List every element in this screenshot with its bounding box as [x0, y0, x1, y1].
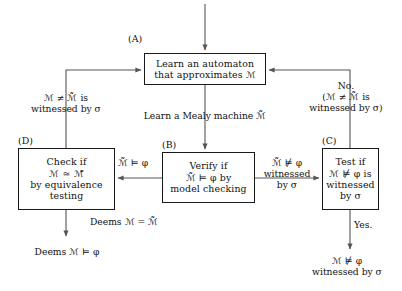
edge-label-c-to-a: No. (ℳ ≠ ℳ̃ is witnessed by σ) [292, 80, 400, 114]
node-d-line-1: Check if [47, 156, 87, 167]
node-c-line-3: witnessed [326, 179, 374, 190]
edge-label-c-to-a-line-1: No. [292, 80, 400, 91]
flowchart-canvas: (A) Learn an automaton that approximates… [0, 0, 402, 291]
edge-label-b-to-c-line-3: by σ [256, 179, 318, 190]
edge-label-b-to-c-line-2: witnessed [256, 168, 318, 179]
node-c-line-4: by σ [340, 190, 361, 201]
node-tag-d: (D) [18, 136, 33, 146]
edge-label-d-to-a-line-1: ℳ ≠ ℳ̃ is [12, 92, 120, 103]
node-d-line-2: ℳ ≃ ℳ̃ [49, 168, 83, 179]
edge-label-b-to-c-line-1: ℳ̃ ⊭ φ [256, 157, 318, 168]
terminal-bottom-left-line-1: Deems ℳ ⊨ φ [8, 246, 126, 257]
node-a-line-2: that approximates ℳ [154, 69, 256, 80]
node-a-line-1: Learn an automaton [156, 58, 254, 69]
edge-label-a-to-b-line-1: Learn a Mealy machine ℳ̃ [130, 110, 280, 121]
node-c-line-2: ℳ ⊭ φ is [329, 168, 371, 179]
node-tag-b: (B) [162, 140, 176, 150]
edge-label-b-to-d: ℳ̃ ⊨ φ [104, 157, 162, 168]
terminal-bottom-right: ℳ ⊭ φ witnessed by σ [292, 255, 402, 277]
node-b-line-2: ℳ̃ ⊨ φ by [186, 172, 232, 183]
edge-label-b-to-c: ℳ̃ ⊭ φ witnessed by σ [256, 157, 318, 191]
edge-label-c-outcome: Yes. [354, 219, 398, 230]
node-c-test-witness[interactable]: Test if ℳ ⊭ φ is witnessed by σ [322, 148, 379, 210]
edge-label-c-to-a-line-3: witnessed by σ) [292, 102, 400, 113]
node-d-check-equivalence[interactable]: Check if ℳ ≃ ℳ̃ by equivalence testing [18, 148, 115, 210]
node-b-verify-model-checking[interactable]: Verify if ℳ̃ ⊨ φ by model checking [162, 152, 255, 203]
node-tag-a: (A) [128, 34, 142, 44]
node-a-learn-automaton[interactable]: Learn an automaton that approximates ℳ [144, 53, 266, 85]
edge-label-b-to-d-line-1: ℳ̃ ⊨ φ [104, 157, 162, 168]
edge-label-d-to-a-line-2: witnessed by σ [12, 103, 120, 114]
node-d-line-4: testing [50, 190, 84, 201]
node-b-line-3: model checking [170, 183, 246, 194]
node-d-line-3: by equivalence [30, 179, 103, 190]
terminal-bottom-left: Deems ℳ ⊨ φ [8, 246, 126, 257]
edge-label-a-to-b: Learn a Mealy machine ℳ̃ [130, 110, 280, 121]
node-c-line-1: Test if [336, 156, 366, 167]
node-tag-c: (C) [322, 136, 337, 146]
edge-label-d-outcome: Deems ℳ = ℳ̃ [74, 216, 174, 227]
edge-label-d-outcome-line-1: Deems ℳ = ℳ̃ [74, 216, 174, 227]
terminal-bottom-right-line-1: ℳ ⊭ φ [292, 255, 402, 266]
terminal-bottom-right-line-2: witnessed by σ [292, 266, 402, 277]
node-b-line-1: Verify if [189, 160, 227, 171]
edge-label-d-to-a: ℳ ≠ ℳ̃ is witnessed by σ [12, 92, 120, 114]
edge-label-c-to-a-line-2: (ℳ ≠ ℳ̃ is [292, 91, 400, 102]
edge-label-c-outcome-line-1: Yes. [354, 219, 398, 230]
